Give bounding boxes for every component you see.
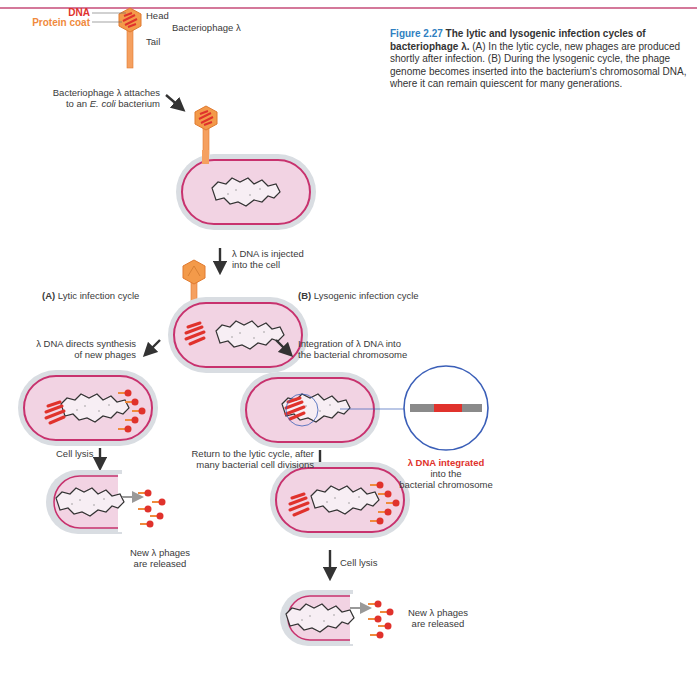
label-lytic-synth-1: λ DNA directs synthesis [0, 338, 136, 349]
label-return-2: many bacterial cell divisions [150, 459, 314, 470]
label-lysogenic-cycle: (B) Lysogenic infection cycle [298, 290, 419, 301]
arrow-attach [166, 95, 180, 107]
label-protein-coat: Protein coat [20, 17, 90, 28]
label-released-b-1: New λ phages [398, 607, 478, 618]
magnified-chromosome-icon [404, 366, 488, 450]
label-tail: Tail [146, 36, 160, 47]
label-inject-1: λ DNA is injected [232, 248, 304, 259]
label-attach-2: to an E. coli bacterium [30, 98, 160, 109]
lysed-cell-b [280, 590, 394, 646]
label-cell-lysis-a: Cell lysis [56, 448, 93, 459]
label-head: Head [146, 10, 169, 21]
label-integration-1: Integration of λ DNA into [298, 338, 401, 349]
label-released-b-2: are released [398, 618, 478, 629]
bacterium-cell-1 [176, 154, 316, 230]
label-released-a-2: are released [120, 558, 200, 569]
label-integration-2: the bacterial chromosome [298, 349, 407, 360]
phage-structure-icon [92, 8, 141, 68]
label-lytic-cycle: (A) Lytic infection cycle [42, 290, 139, 301]
lytic-cell [18, 370, 158, 446]
lysed-cell-a [46, 470, 166, 534]
label-integrated-1: λ DNA integrated [396, 457, 496, 468]
label-attach-1: Bacteriophage λ attaches [30, 87, 160, 98]
label-cell-lysis-b: Cell lysis [340, 557, 377, 568]
label-integrated-2: into the [396, 468, 496, 479]
arrow-lytic [148, 340, 160, 352]
label-inject-2: into the cell [232, 259, 280, 270]
label-integrated-3: bacterial chromosome [386, 479, 506, 490]
induced-cell [270, 462, 410, 538]
bacterium-cell-2 [168, 297, 308, 373]
label-lytic-synth-2: of new phages [0, 349, 136, 360]
label-released-a-1: New λ phages [120, 547, 200, 558]
label-return-1: Return to the lytic cycle, after [150, 448, 314, 459]
lysogenic-cell [240, 372, 406, 448]
label-phage-name: Bacteriophage λ [172, 22, 241, 33]
